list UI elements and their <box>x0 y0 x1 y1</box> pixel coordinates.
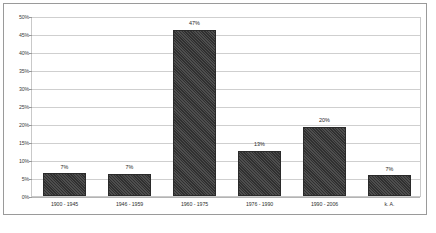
x-axis-category-label: 1946 - 1959 <box>94 202 165 207</box>
x-axis-category-label: 1990 - 2006 <box>289 202 360 207</box>
bar-group: 7%k. A. <box>368 18 411 196</box>
x-axis-category-label: 1900 - 1945 <box>29 202 100 207</box>
bar-value-label: 7% <box>108 165 151 170</box>
y-axis-tick-label: 5% <box>22 177 29 182</box>
y-axis-tick-label: 0% <box>22 195 29 200</box>
bar-group: 7%1946 - 1959 <box>108 18 151 196</box>
y-tick-mark <box>29 197 32 198</box>
bar-group: 20%1990 - 2006 <box>303 18 346 196</box>
bar-value-label: 47% <box>173 21 216 26</box>
bar-value-label: 7% <box>368 167 411 172</box>
y-axis-tick-label: 50% <box>19 15 29 20</box>
x-axis-category-label: k. A. <box>354 202 425 207</box>
bar-value-label: 20% <box>303 118 346 123</box>
y-axis-tick-label: 30% <box>19 87 29 92</box>
y-axis-tick-label: 25% <box>19 105 29 110</box>
bar[interactable] <box>368 175 411 196</box>
y-axis-tick-label: 45% <box>19 33 29 38</box>
bar-value-label: 7% <box>43 165 86 170</box>
bar[interactable] <box>43 173 86 196</box>
bar-value-label: 13% <box>238 142 281 147</box>
bar[interactable] <box>303 127 346 196</box>
y-axis-tick-label: 35% <box>19 69 29 74</box>
y-axis-tick-label: 15% <box>19 141 29 146</box>
chart-frame: 0%5%10%15%20%25%30%35%40%45%50% 7%1900 -… <box>3 3 427 215</box>
gridline-0 <box>32 197 420 198</box>
bar-series: 7%1900 - 19457%1946 - 195947%1960 - 1975… <box>32 18 420 196</box>
y-axis-tick-label: 10% <box>19 159 29 164</box>
bar-group: 47%1960 - 1975 <box>173 18 216 196</box>
bar-group: 13%1976 - 1990 <box>238 18 281 196</box>
bar-group: 7%1900 - 1945 <box>43 18 86 196</box>
bar[interactable] <box>108 174 151 196</box>
bar[interactable] <box>238 151 281 196</box>
x-axis-category-label: 1976 - 1990 <box>224 202 295 207</box>
x-axis-category-label: 1960 - 1975 <box>159 202 230 207</box>
y-axis-tick-label: 40% <box>19 51 29 56</box>
y-axis-tick-label: 20% <box>19 123 29 128</box>
plot-area: 0%5%10%15%20%25%30%35%40%45%50% 7%1900 -… <box>31 17 421 197</box>
bar[interactable] <box>173 30 216 196</box>
